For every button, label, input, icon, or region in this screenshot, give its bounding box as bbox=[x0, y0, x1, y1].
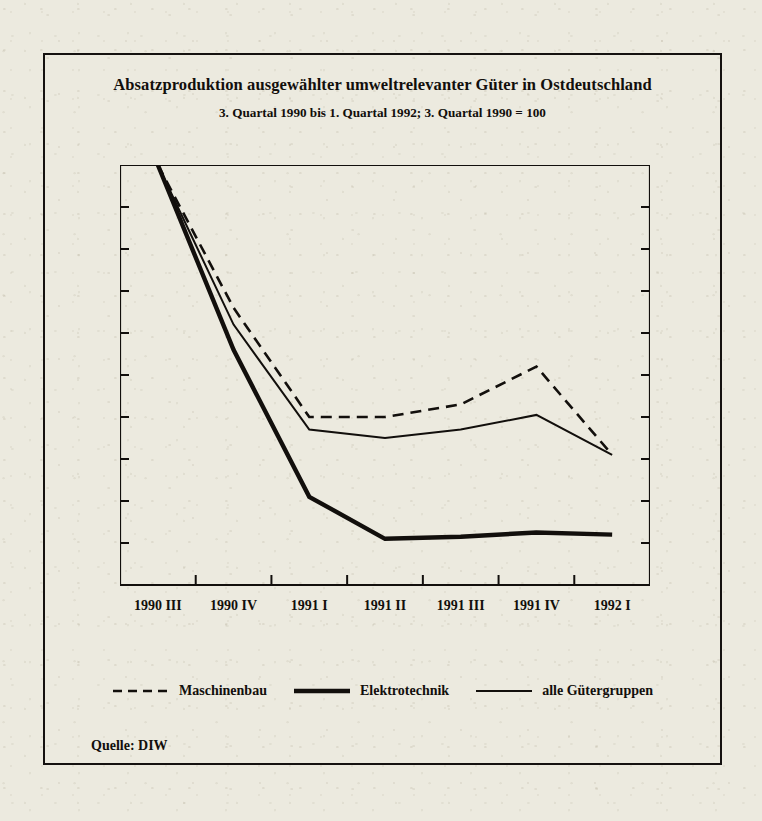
line-chart-svg: 0010102020303040405050606070708080909010… bbox=[120, 165, 650, 632]
figure-frame: Absatzproduktion ausgewählter umweltrele… bbox=[43, 53, 722, 765]
legend-item-elektrotechnik: Elektrotechnik bbox=[293, 683, 449, 699]
legend-swatch-solid-thick bbox=[293, 685, 351, 697]
legend-item-maschinenbau: Maschinenbau bbox=[112, 683, 267, 699]
plot-area: 0010102020303040405050606070708080909010… bbox=[120, 165, 650, 632]
legend-label-maschinenbau: Maschinenbau bbox=[179, 683, 267, 699]
chart-title: Absatzproduktion ausgewählter umweltrele… bbox=[45, 75, 720, 95]
x-tick-label: 1992 I bbox=[594, 598, 631, 613]
axis-layer bbox=[120, 165, 650, 585]
x-tick-label: 1990 IV bbox=[210, 598, 257, 613]
x-tick-label: 1990 III bbox=[134, 598, 182, 613]
chart-legend: Maschinenbau Elektrotechnik alle Gütergr… bbox=[45, 683, 720, 699]
series-layer bbox=[158, 165, 612, 539]
tick-label-layer: 0010102020303040405050606070708080909010… bbox=[120, 165, 650, 613]
x-tick-label: 1991 I bbox=[291, 598, 328, 613]
legend-item-alle-guetergruppen: alle Gütergruppen bbox=[475, 683, 653, 699]
series-line bbox=[158, 165, 612, 455]
legend-label-elektrotechnik: Elektrotechnik bbox=[360, 683, 449, 699]
legend-swatch-dashed bbox=[112, 685, 170, 697]
x-tick-label: 1991 III bbox=[437, 598, 485, 613]
source-note: Quelle: DIW bbox=[91, 738, 168, 754]
legend-swatch-solid-thin bbox=[475, 685, 533, 697]
x-tick-label: 1991 IV bbox=[513, 598, 560, 613]
x-tick-label: 1991 II bbox=[364, 598, 406, 613]
chart-subtitle: 3. Quartal 1990 bis 1. Quartal 1992; 3. … bbox=[45, 105, 720, 121]
legend-label-alle-guetergruppen: alle Gütergruppen bbox=[542, 683, 653, 699]
series-line bbox=[158, 165, 612, 539]
